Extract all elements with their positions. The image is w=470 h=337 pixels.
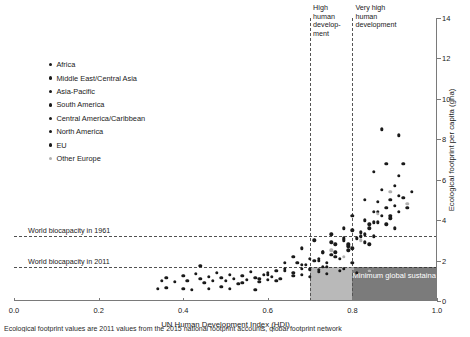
data-point: [397, 174, 400, 177]
data-point: [401, 196, 404, 199]
data-point: [401, 162, 404, 165]
legend-marker-icon: [49, 117, 52, 120]
legend-item[interactable]: Africa: [49, 58, 145, 71]
x-axis-line: [14, 300, 437, 301]
x-axis-tick: [14, 298, 15, 301]
x-axis-tick-label: 0.4: [178, 306, 188, 315]
data-point: [359, 235, 362, 238]
data-point: [380, 214, 383, 217]
data-point: [300, 247, 303, 250]
data-point: [385, 222, 388, 225]
data-point: [203, 281, 206, 284]
y-axis-line: [436, 18, 437, 301]
legend-marker-icon: [49, 90, 52, 93]
data-point: [351, 247, 354, 250]
data-point: [296, 261, 299, 264]
data-point: [249, 270, 252, 273]
data-point: [220, 285, 223, 288]
data-point: [410, 190, 413, 193]
data-point: [245, 278, 248, 281]
x-axis-tick-label: 1.0: [432, 306, 442, 315]
data-point: [351, 261, 354, 264]
data-point: [385, 206, 388, 209]
legend-item-label: Middle East/Central Asia: [56, 74, 137, 83]
data-point: [279, 277, 282, 280]
legend-item-label: South America: [56, 100, 104, 109]
data-point: [389, 216, 392, 219]
data-point: [173, 280, 176, 283]
legend-item-label: Central America/Caribbean: [56, 114, 145, 123]
data-point: [253, 288, 256, 291]
legend-marker-icon: [49, 143, 52, 146]
data-point: [291, 255, 294, 258]
legend-marker-icon: [49, 103, 52, 106]
legend-item[interactable]: Asia-Pacific: [49, 85, 145, 98]
x-axis-tick-label: 0.2: [93, 306, 103, 315]
legend-item-label: Other Europe: [56, 154, 100, 163]
legend-item[interactable]: South America: [49, 98, 145, 111]
legend-marker-icon: [49, 130, 52, 133]
quadrant-label: Minimum global sustainable development q…: [352, 271, 437, 281]
data-point: [215, 271, 218, 274]
data-point: [372, 210, 375, 213]
data-point: [389, 190, 392, 193]
data-point: [363, 241, 366, 244]
data-point: [165, 276, 168, 279]
data-point: [181, 287, 184, 290]
x-axis-tick: [268, 298, 269, 301]
legend-item[interactable]: Other Europe: [49, 152, 145, 165]
data-point: [207, 287, 210, 290]
data-point: [194, 272, 197, 275]
legend-item[interactable]: Central America/Caribbean: [49, 112, 145, 125]
x-axis-tick: [183, 298, 184, 301]
data-point: [351, 229, 354, 232]
legend-item-label: North America: [56, 127, 103, 136]
y-axis-tick-label: 14: [442, 14, 450, 23]
data-point: [156, 287, 159, 290]
legend-marker-icon: [49, 63, 52, 66]
x-axis-tick-label: 0.0: [9, 306, 19, 315]
legend-item-label: Asia-Pacific: [56, 87, 95, 96]
data-point: [385, 162, 388, 165]
chart-legend: AfricaMiddle East/Central AsiaAsia-Pacif…: [49, 58, 145, 165]
data-point: [308, 257, 311, 260]
legend-item[interactable]: North America: [49, 125, 145, 138]
legend-marker-icon: [49, 76, 52, 79]
data-point: [266, 278, 269, 281]
data-point: [165, 286, 168, 289]
horizontal-reference-label: World biocapacity in 2011: [28, 257, 110, 266]
x-axis-tick: [352, 298, 353, 301]
data-point: [389, 198, 392, 201]
data-point: [232, 277, 235, 280]
data-point: [160, 279, 163, 282]
data-point: [380, 127, 383, 130]
data-point: [291, 274, 294, 277]
x-axis-tick: [99, 298, 100, 301]
legend-marker-icon: [49, 157, 52, 160]
data-point: [241, 281, 244, 284]
vertical-reference-line: [352, 18, 353, 301]
y-axis-tick-label: 4: [442, 216, 446, 225]
data-point: [359, 239, 362, 242]
y-axis-tick: [437, 18, 441, 19]
data-point: [368, 243, 371, 246]
data-point: [372, 220, 375, 223]
data-point: [338, 257, 341, 260]
data-point: [334, 243, 337, 246]
y-axis-tick: [437, 261, 441, 262]
vertical-reference-label: High human develop- ment: [313, 4, 341, 38]
legend-item[interactable]: EU: [49, 138, 145, 151]
data-point: [325, 261, 328, 264]
data-point: [220, 276, 223, 279]
data-point: [351, 214, 354, 217]
y-axis-tick-label: 2: [442, 256, 446, 265]
legend-item[interactable]: Middle East/Central Asia: [49, 71, 145, 84]
data-point: [275, 269, 278, 272]
y-axis-tick-label: 0: [442, 297, 446, 306]
data-point: [241, 274, 244, 277]
data-point: [372, 235, 375, 238]
data-point: [224, 279, 227, 282]
legend-item-label: Africa: [56, 60, 75, 69]
data-point: [397, 134, 400, 137]
data-point: [313, 239, 316, 242]
